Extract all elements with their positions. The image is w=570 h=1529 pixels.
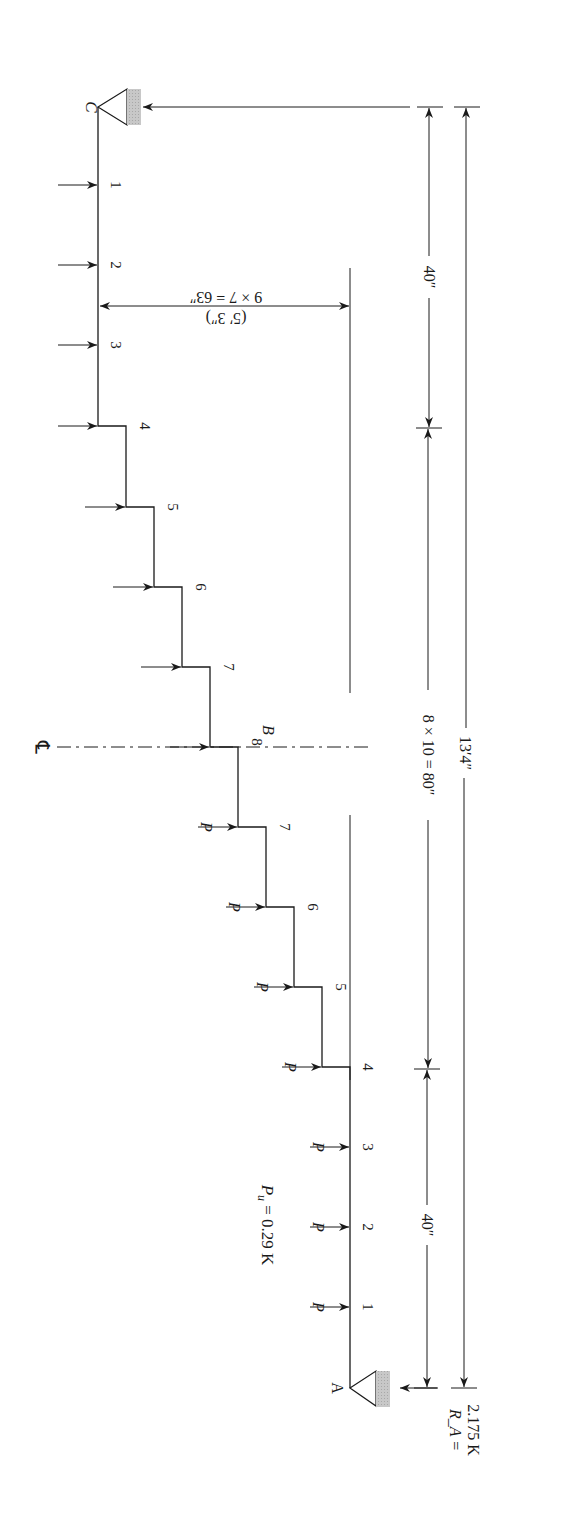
- reaction-a-label: R_A =: [447, 1408, 464, 1451]
- dim-flight-label: 8 × 10 = 80″: [420, 715, 437, 796]
- svg-text:3: 3: [360, 1143, 376, 1151]
- load-label-p: P: [254, 981, 271, 992]
- svg-text:4: 4: [137, 422, 153, 430]
- support-a-label: A: [329, 1382, 346, 1394]
- dim-total-label: 13′4″: [457, 736, 474, 770]
- load-label-p: P: [226, 901, 243, 912]
- load-arrows-upper: [58, 185, 349, 1307]
- dim-upper-landing-label: 40″: [421, 266, 438, 289]
- svg-text:2: 2: [108, 261, 124, 269]
- rise-dimension-label: 9 × 7 = 63″: [190, 289, 263, 306]
- support-a-icon: [350, 1371, 390, 1407]
- load-label-p: P: [198, 821, 215, 832]
- svg-text:1: 1: [360, 1303, 376, 1311]
- load-label-p: P: [310, 1141, 327, 1152]
- staircase-diagram: C A R_A = 2.175 K P P P P P P: [0, 0, 570, 1529]
- svg-text:3: 3: [108, 341, 124, 349]
- svg-text:7: 7: [221, 663, 237, 671]
- support-c-label: C: [82, 101, 101, 113]
- centerline-icon: ℄: [31, 740, 53, 754]
- svg-text:8: 8: [249, 738, 265, 746]
- load-label-p: P: [282, 1061, 299, 1072]
- centerline-point-label: B: [260, 725, 277, 735]
- svg-text:1: 1: [108, 181, 124, 189]
- rise-dimension-sublabel: (5′ 3″): [206, 309, 247, 327]
- svg-text:5: 5: [333, 983, 349, 991]
- load-label-p: P: [310, 1221, 327, 1232]
- svg-text:6: 6: [193, 583, 209, 591]
- node-labels-upper: 1 2 3 4 5 6 7 8: [108, 181, 265, 746]
- svg-text:4: 4: [360, 1063, 376, 1071]
- svg-text:6: 6: [305, 903, 321, 911]
- svg-text:2: 2: [360, 1223, 376, 1231]
- reaction-a-value: 2.175 K: [465, 1404, 482, 1456]
- dim-lower-landing-label: 40″: [419, 1214, 436, 1237]
- support-c-icon: [98, 89, 141, 125]
- load-magnitude-label: Pu = 0.29 K: [255, 1184, 277, 1266]
- load-label-p: P: [310, 1301, 327, 1312]
- svg-text:7: 7: [277, 823, 293, 831]
- svg-text:5: 5: [165, 503, 181, 511]
